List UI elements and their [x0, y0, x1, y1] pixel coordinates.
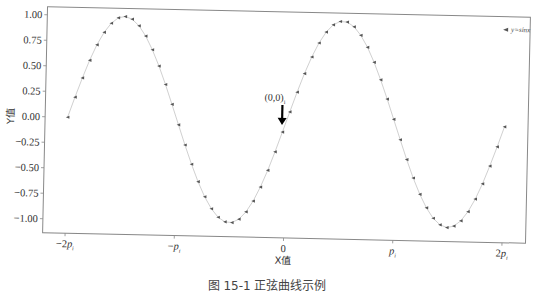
data-point [473, 198, 477, 201]
data-point [157, 64, 161, 67]
data-point [481, 182, 485, 185]
data-point [452, 224, 456, 227]
legend-label: y=sinx [510, 26, 531, 34]
data-point [123, 15, 127, 18]
data-point [372, 61, 376, 64]
legend: y=sinx [503, 26, 531, 35]
y-axis-label: Y值 [4, 108, 16, 125]
y-tick-label: 0.50 [23, 60, 42, 71]
data-point [144, 34, 148, 37]
data-point [411, 176, 415, 179]
plot-frame [43, 7, 531, 243]
y-tick-label: −0.75 [14, 187, 39, 199]
data-point [209, 207, 213, 210]
legend-marker-icon [503, 28, 508, 32]
y-tick-label: 0.25 [22, 85, 41, 96]
data-point [151, 48, 155, 51]
data-point [130, 18, 134, 21]
sine-line [65, 15, 506, 228]
y-tick-label: −1.00 [13, 213, 38, 225]
data-point [95, 43, 99, 46]
data-point [431, 217, 435, 220]
data-point [310, 55, 314, 58]
y-tick-label: −0.25 [15, 136, 40, 148]
annotation-label: (0,0)i [264, 92, 285, 105]
y-axis: 1.000.750.500.250.00−0.25−0.50−0.75−1.00 [13, 9, 47, 225]
data-point [266, 169, 270, 172]
data-point [295, 91, 299, 94]
data-point [251, 199, 255, 202]
y-tick-label: −0.50 [15, 162, 40, 174]
x-tick-label: 0 [281, 243, 286, 254]
data-point [203, 195, 207, 198]
data-point [273, 150, 277, 153]
x-tick-label: −pi [167, 240, 180, 253]
data-point [196, 180, 200, 183]
data-point [425, 206, 429, 209]
y-tick-label: 0.75 [23, 34, 42, 45]
x-tick-label: −2pi [56, 238, 75, 251]
data-point [317, 41, 321, 44]
y-tick-label: 1.00 [24, 9, 43, 20]
x-tick-label: pi [388, 245, 397, 258]
figure-caption: 图 15-1 正弦曲线示例 [0, 276, 534, 293]
data-point [259, 185, 263, 188]
data-point [445, 226, 449, 229]
y-tick-label: 0.00 [22, 111, 41, 122]
data-point [230, 221, 234, 224]
data-point [303, 72, 307, 75]
data-point [88, 59, 92, 62]
data-point [102, 31, 106, 34]
data-point [324, 30, 328, 33]
data-point [338, 20, 342, 23]
data-point [237, 218, 241, 221]
data-point [366, 46, 370, 49]
x-tick-label: 2pi [496, 248, 509, 261]
annotation: (0,0)i [264, 92, 287, 125]
data-point [345, 20, 349, 23]
data-point [418, 193, 422, 196]
x-axis-label: X值 [274, 254, 291, 266]
